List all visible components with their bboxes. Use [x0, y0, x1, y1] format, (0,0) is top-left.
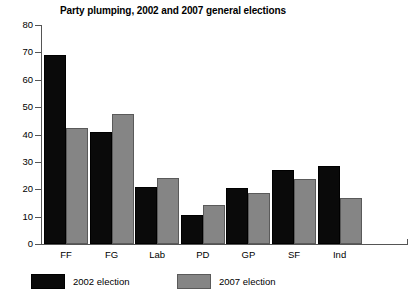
bar-lab-2007	[157, 178, 179, 244]
bar-ind-2007	[340, 198, 362, 244]
bar-gp-2007	[248, 193, 270, 244]
bar-fg-2007	[112, 114, 134, 244]
bar-pd-2002	[181, 215, 203, 244]
legend-swatch-icon	[177, 274, 211, 289]
bar-lab-2002	[135, 187, 157, 244]
legend-label: 2007 election	[219, 276, 276, 287]
bar-chart: Party plumping, 2002 and 2007 general el…	[0, 0, 415, 295]
bar-ff-2002	[44, 55, 66, 244]
bar-sf-2007	[294, 179, 316, 244]
bar-ind-2002	[318, 166, 340, 244]
legend-label: 2002 election	[73, 276, 130, 287]
legend-swatch-icon	[31, 274, 65, 289]
bar-ff-2007	[66, 128, 88, 244]
bar-gp-2002	[226, 188, 248, 244]
bar-pd-2007	[203, 205, 225, 244]
x-axis-label-ind: Ind	[308, 249, 372, 260]
bar-sf-2002	[272, 170, 294, 244]
legend-item[interactable]: 2007 election	[177, 273, 276, 289]
bar-fg-2002	[90, 132, 112, 244]
legend-item[interactable]: 2002 election	[31, 273, 130, 289]
